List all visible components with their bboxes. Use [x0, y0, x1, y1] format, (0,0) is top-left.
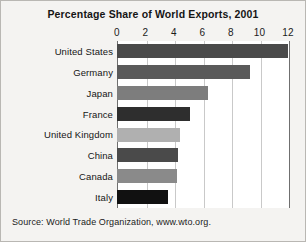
- chart-figure: Percentage Share of World Exports, 2001 …: [0, 0, 306, 242]
- category-label-row: United States: [1, 41, 113, 62]
- bar-row: [117, 62, 288, 83]
- bar: [117, 86, 208, 100]
- source-note: Source: World Trade Organization, www.wt…: [12, 217, 211, 227]
- category-label-row: Japan: [1, 83, 113, 104]
- x-tick-label: 10: [254, 27, 266, 38]
- bar: [117, 44, 288, 58]
- category-label: Japan: [87, 88, 113, 99]
- bar: [117, 65, 250, 79]
- category-label: United States: [55, 46, 113, 57]
- x-tick-label: 4: [171, 27, 177, 38]
- bar: [117, 128, 180, 142]
- bar-row: [117, 145, 288, 166]
- category-label: Canada: [79, 171, 113, 182]
- x-axis-tick-labels: 024681012: [1, 27, 306, 41]
- chart-title: Percentage Share of World Exports, 2001: [1, 8, 305, 20]
- bar: [117, 169, 177, 183]
- bar: [117, 190, 168, 204]
- x-tick-label: 2: [143, 27, 149, 38]
- category-label-row: Italy: [1, 187, 113, 208]
- bar-row: [117, 187, 288, 208]
- bar-row: [117, 125, 288, 146]
- category-axis-labels: United StatesGermanyJapanFranceUnited Ki…: [1, 41, 113, 208]
- category-label-row: France: [1, 104, 113, 125]
- category-label-row: Germany: [1, 62, 113, 83]
- category-label: United Kingdom: [44, 129, 113, 140]
- category-label: Italy: [95, 192, 113, 203]
- x-tick-label: 12: [282, 27, 294, 38]
- x-tick-label: 0: [114, 27, 120, 38]
- x-tick-label: 6: [200, 27, 206, 38]
- category-label: Germany: [73, 67, 113, 78]
- bars-layer: [117, 41, 288, 208]
- category-label: China: [88, 150, 113, 161]
- bar-row: [117, 41, 288, 62]
- bar-row: [117, 104, 288, 125]
- category-label-row: United Kingdom: [1, 125, 113, 146]
- bar-row: [117, 166, 288, 187]
- category-label-row: Canada: [1, 166, 113, 187]
- x-tick-label: 8: [228, 27, 234, 38]
- category-label-row: China: [1, 145, 113, 166]
- bar: [117, 148, 178, 162]
- category-label: France: [83, 109, 113, 120]
- bar-row: [117, 83, 288, 104]
- bar: [117, 107, 190, 121]
